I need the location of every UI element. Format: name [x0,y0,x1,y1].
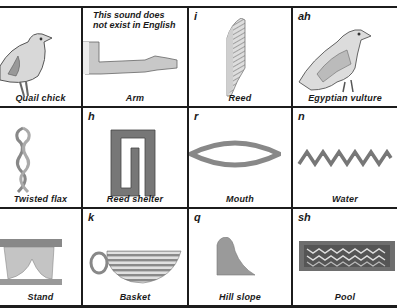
sound-letter: h [88,110,95,122]
sound-letter: n [298,110,305,122]
hill-slope-icon [215,237,257,277]
hieroglyph-cell-twisted-flax: Twisted flax [0,108,81,207]
glyph-label: Quail chick [0,93,81,103]
hieroglyph-cell-pool: sh Pool [293,209,397,305]
sound-letter: r [194,110,198,122]
hieroglyph-cell-hill-slope: q Hill slope [189,209,291,305]
glyph-label: Reed shelter [83,194,187,204]
glyph-label: Mouth [189,194,291,204]
quail-chick-icon [0,26,60,96]
glyph-label: Egyptian vulture [293,93,397,103]
egyptian-vulture-icon [297,20,377,94]
mouth-icon [189,138,281,170]
hieroglyph-cell-quail-chick: Quail chick [0,8,81,106]
glyph-label: Arm [83,93,187,103]
sound-letter: i [194,10,197,22]
hieroglyph-cell-egyptian-vulture: ah Egyptian vulture [293,8,397,106]
glyph-label: Twisted flax [0,194,81,204]
glyph-label: Stand [0,292,81,302]
reed-shelter-icon [109,128,159,198]
hieroglyph-cell-reed-shelter: h Reed shelter [83,108,187,207]
glyph-label: Hill slope [189,292,291,302]
glyph-label: Basket [83,292,187,302]
sound-letter: q [194,211,201,223]
hieroglyph-cell-mouth: r Mouth [189,108,291,207]
sound-letter: k [88,211,94,223]
sound-note: This sound does not exist in English [93,10,176,30]
hieroglyph-cell-reed: i Reed [189,8,291,106]
pool-icon [299,241,395,271]
basket-icon [87,249,183,285]
stand-icon [0,239,62,289]
glyph-label: Reed [189,93,291,103]
twisted-flax-icon [12,126,34,194]
hieroglyph-cell-basket: k Basket [83,209,187,305]
sound-letter: sh [298,211,311,223]
hieroglyph-cell-water: n Water [293,108,397,207]
hieroglyph-cell-stand: Stand [0,209,81,305]
hieroglyph-cell-arm: This sound does not exist in English Arm [83,8,187,106]
water-icon [297,148,393,168]
arm-icon [83,40,183,80]
glyph-label: Water [293,194,397,204]
glyph-label: Pool [293,292,397,302]
reed-icon [221,18,251,98]
